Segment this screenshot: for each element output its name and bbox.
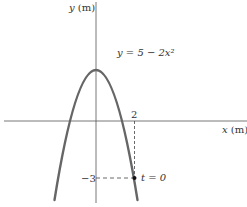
parabola-diagram: y (m) x (m) y = 5 − 2x² 2 −3 t = 0 bbox=[0, 0, 247, 207]
y-axis-label: y (m) bbox=[68, 2, 95, 13]
y-marker-label: −3 bbox=[81, 173, 96, 184]
start-point bbox=[133, 176, 137, 180]
x-marker-label: 2 bbox=[131, 109, 137, 120]
x-axis-label: x (m) bbox=[222, 124, 247, 135]
point-label: t = 0 bbox=[141, 172, 167, 183]
equation-label: y = 5 − 2x² bbox=[116, 47, 175, 58]
